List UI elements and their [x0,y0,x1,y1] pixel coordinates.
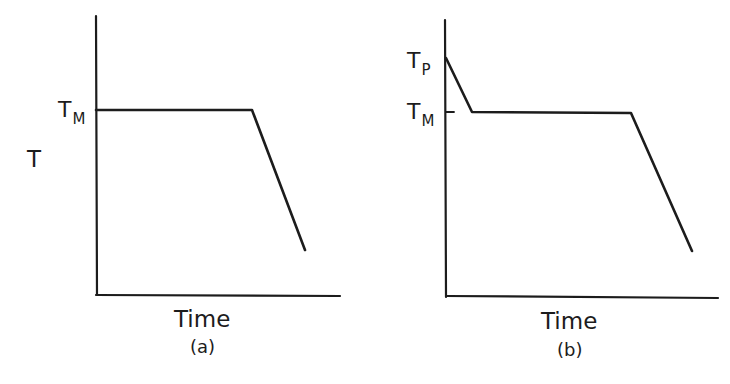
panel-b-y-axis [445,20,446,297]
diagram-canvas [0,0,730,384]
panel-a-tm-label: TM [58,99,85,121]
panel-b-cooling-curve [446,58,692,251]
panel-a-y-axis [96,16,97,295]
panel-b-tp-base: T [407,48,420,73]
panel-a-x-axis [96,295,340,296]
panel-a-caption: (a) [190,338,215,356]
panel-a-cooling-curve [96,110,305,250]
panel-b-caption: (b) [557,341,582,359]
panel-b-tp-label: TP [407,50,431,72]
panel-a-y-axis-label: T [27,148,41,171]
panel-b-x-axis-label: Time [541,310,597,333]
panel-a-plot [96,16,340,296]
panel-b-tm-sub: M [421,112,434,130]
panel-b-tm-base: T [407,99,420,124]
panel-a-tm-base: T [58,97,71,122]
panel-a-x-axis-label: Time [174,308,230,331]
panel-b-tm-label: TM [407,101,434,123]
panel-b-tp-sub: P [421,61,430,79]
panel-a-tm-sub: M [72,110,85,128]
panel-b-x-axis [446,296,718,298]
panel-b-plot [445,20,718,298]
